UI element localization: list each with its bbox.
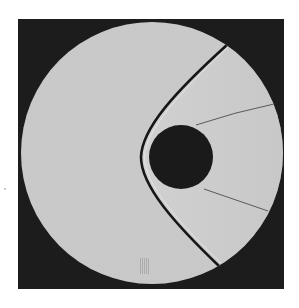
speck <box>4 188 6 190</box>
sphere <box>149 125 213 189</box>
shadowgraph-scene <box>0 0 299 308</box>
